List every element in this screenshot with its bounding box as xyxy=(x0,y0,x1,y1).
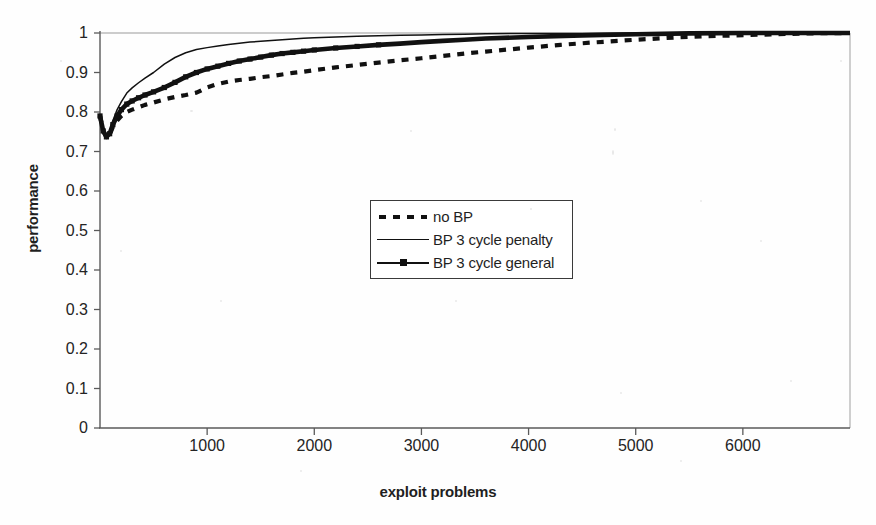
series-marker xyxy=(301,49,306,54)
series-marker xyxy=(124,102,129,107)
series-marker xyxy=(258,55,263,60)
series-marker xyxy=(355,44,360,49)
scan-speckle xyxy=(190,110,193,112)
scan-speckle xyxy=(840,60,842,62)
series-line-no-bp xyxy=(100,33,850,137)
series-marker xyxy=(172,80,177,85)
scan-speckle xyxy=(300,470,302,472)
series-marker xyxy=(269,53,274,58)
legend-item-no-bp: no BP xyxy=(377,205,566,228)
legend-item-bp-general: BP 3 cycle general xyxy=(377,251,566,274)
series-marker xyxy=(183,74,188,79)
y-tick-label-text: 0.5 xyxy=(66,222,88,240)
series-marker xyxy=(136,95,141,100)
x-tick-label: 1000 xyxy=(189,437,225,455)
series-marker xyxy=(226,61,231,66)
y-tick-label-text: 0.1 xyxy=(66,380,88,398)
x-tick-label: 2000 xyxy=(296,437,332,455)
x-tick-label: 4000 xyxy=(511,437,547,455)
series-marker xyxy=(376,42,381,47)
legend-key-marker-icon xyxy=(377,255,429,271)
series-marker xyxy=(205,66,210,71)
scan-speckle xyxy=(680,460,682,462)
y-tick-label-text: 0.7 xyxy=(66,143,88,161)
series-marker xyxy=(194,70,199,75)
scan-speckle xyxy=(620,392,622,394)
y-tick-label-text: 0.8 xyxy=(66,103,88,121)
series-marker xyxy=(142,92,147,97)
series-marker xyxy=(115,113,120,118)
y-tick-label-text: 0.3 xyxy=(66,301,88,319)
scan-speckle xyxy=(220,300,222,302)
y-tick-label-text: 0 xyxy=(79,419,88,437)
series-marker xyxy=(215,64,220,69)
legend-key-solid-icon xyxy=(377,232,429,248)
scan-speckle xyxy=(790,380,792,382)
scan-speckle xyxy=(60,60,62,62)
x-tick-label: 5000 xyxy=(618,437,654,455)
x-tick-label: 6000 xyxy=(725,437,761,455)
legend-label-no-bp: no BP xyxy=(433,208,473,225)
series-marker xyxy=(333,45,338,50)
legend-key-dashed-icon xyxy=(377,209,429,225)
y-tick-label-text: 0.4 xyxy=(66,261,88,279)
scan-speckle xyxy=(612,150,614,155)
legend-item-bp-penalty: BP 3 cycle penalty xyxy=(377,228,566,251)
series-marker xyxy=(110,122,115,127)
scan-speckle xyxy=(120,250,122,252)
chart-figure: performance exploit problems 00.10.20.30… xyxy=(0,0,876,525)
series-marker xyxy=(247,56,252,61)
legend-label-bp-penalty: BP 3 cycle penalty xyxy=(433,231,553,248)
y-tick-label-text: 0.6 xyxy=(66,182,88,200)
series-marker xyxy=(97,113,102,118)
series-marker xyxy=(101,128,106,133)
series-marker xyxy=(151,89,156,94)
chart-legend: no BP BP 3 cycle penalty BP 3 cycle gene… xyxy=(370,200,573,279)
scan-speckle xyxy=(700,200,702,202)
data-series-group xyxy=(97,33,850,139)
legend-label-bp-general: BP 3 cycle general xyxy=(433,254,554,271)
series-marker xyxy=(119,107,124,112)
scan-speckle xyxy=(410,130,412,132)
x-tick-label: 3000 xyxy=(404,437,440,455)
series-marker xyxy=(162,85,167,90)
series-marker xyxy=(237,58,242,63)
series-marker xyxy=(107,131,112,136)
scan-speckle xyxy=(614,128,616,131)
series-marker xyxy=(130,98,135,103)
scan-speckle xyxy=(455,300,457,302)
scan-speckle xyxy=(530,208,532,210)
y-tick-label-text: 0.9 xyxy=(66,64,88,82)
y-tick-label-text: 0.2 xyxy=(66,340,88,358)
series-marker xyxy=(280,51,285,56)
y-tick-label-text: 1 xyxy=(79,24,88,42)
scan-speckle xyxy=(760,240,762,242)
series-marker xyxy=(312,47,317,52)
series-marker xyxy=(290,50,295,55)
